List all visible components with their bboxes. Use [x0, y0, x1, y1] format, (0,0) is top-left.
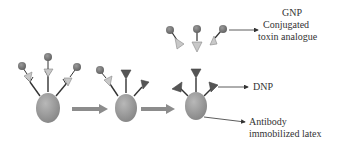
latex-bead-icon: [36, 93, 60, 123]
gnp-particle-icon: [44, 53, 52, 61]
gnp-particle-icon: [73, 63, 81, 71]
latex-bead-icon: [185, 92, 207, 120]
gnp-particle-icon: [18, 62, 26, 70]
stage-1-bead-complex: [18, 53, 81, 123]
immobilized-latex-label: immobilized latex: [249, 128, 321, 140]
gnp-particle-icon: [193, 25, 201, 33]
antibody-label: Antibody: [249, 116, 287, 128]
process-arrow-1: [72, 104, 108, 114]
dnp-icon: [172, 82, 182, 92]
gnp-particle-icon: [96, 66, 104, 74]
free-gnp-toxin-group: [166, 25, 258, 52]
latex-label-pointer: [204, 117, 245, 122]
diagram-canvas: GNP Conjugated toxin analogue DNP Antibo…: [0, 0, 346, 142]
conjugated-label: Conjugated: [263, 19, 309, 31]
stage-3-bead-complex: [172, 69, 248, 122]
process-arrow-2: [141, 104, 175, 114]
dnp-icon: [121, 70, 131, 79]
gnp-particle-icon: [219, 25, 227, 33]
toxin-analogue-icon: [175, 38, 184, 49]
stage-2-bead-complex: [96, 66, 149, 122]
toxin-analogue-label: toxin analogue: [258, 31, 317, 43]
gnp-label: GNP: [282, 7, 302, 19]
dnp-label: DNP: [253, 81, 273, 93]
toxin-analogue-icon: [192, 42, 202, 52]
latex-bead-icon: [115, 94, 137, 122]
gnp-particle-icon: [166, 26, 174, 34]
dnp-icon: [191, 69, 201, 78]
